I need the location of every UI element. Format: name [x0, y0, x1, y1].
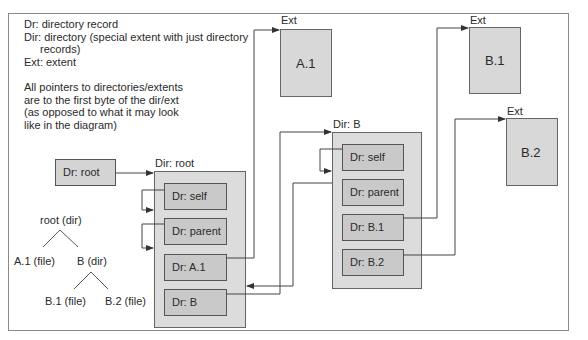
svg-text:Dr: A.1: Dr: A.1 — [172, 261, 206, 273]
tree-b-label: B (dir) — [77, 255, 107, 267]
svg-text:B.1: B.1 — [485, 53, 505, 68]
ext-b1-title: Ext — [470, 14, 486, 26]
ext-a1-title: Ext — [281, 14, 297, 26]
svg-text:Dr: self: Dr: self — [350, 151, 386, 163]
svg-text:Dr: self: Dr: self — [172, 190, 208, 202]
ext-b1-box: B.1 — [470, 28, 521, 94]
dr-root-record: Dr: root — [56, 160, 116, 186]
svg-text:A.1: A.1 — [296, 56, 316, 71]
note-line: All pointers to directories/extents — [24, 81, 248, 94]
tree-b2-label: B.2 (file) — [105, 295, 146, 307]
dir-root-record-parent: Dr: parent — [165, 219, 227, 245]
ext-a1-box: A.1 — [281, 30, 332, 97]
ext-b2-title: Ext — [507, 105, 523, 117]
svg-text:Dr: root: Dr: root — [63, 166, 100, 178]
dir-b-record-b1: Dr: B.1 — [343, 215, 404, 241]
svg-text:Dr: B.2: Dr: B.2 — [350, 256, 384, 268]
note-line: (as opposed to what it may look — [24, 106, 248, 119]
tree-root-label: root (dir) — [40, 214, 82, 226]
legend-line: records) — [24, 43, 248, 56]
tree-b1-label: B.1 (file) — [45, 295, 86, 307]
svg-text:Dr: B: Dr: B — [172, 296, 197, 308]
dir-b-record-self: Dr: self — [343, 145, 404, 171]
dir-root-title: Dir: root — [155, 157, 194, 169]
svg-text:B.2: B.2 — [521, 145, 541, 160]
legend-line: Dr: directory record — [24, 18, 248, 31]
svg-text:Dr: parent: Dr: parent — [350, 186, 399, 198]
dir-root-record-a1: Dr: A.1 — [165, 255, 227, 281]
note-line: are to the first byte of the dir/ext — [24, 94, 248, 107]
note-line: like in the diagram) — [24, 119, 248, 132]
legend: Dr: directory record Dir: directory (spe… — [24, 18, 248, 131]
ext-b2-box: B.2 — [507, 119, 558, 186]
svg-text:Dr: B.1: Dr: B.1 — [350, 221, 384, 233]
dir-b-title: Dir: B — [333, 118, 361, 130]
dir-root-record-self: Dr: self — [165, 184, 227, 210]
dir-root-record-b: Dr: B — [165, 290, 227, 316]
dir-b-record-b2: Dr: B.2 — [343, 250, 404, 276]
legend-line: Dir: directory (special extent with just… — [24, 31, 248, 44]
legend-line: Ext: extent — [24, 56, 248, 69]
tree-a1-label: A.1 (file) — [14, 255, 55, 267]
svg-text:Dr: parent: Dr: parent — [172, 225, 221, 237]
dir-b-record-parent: Dr: parent — [343, 180, 404, 206]
